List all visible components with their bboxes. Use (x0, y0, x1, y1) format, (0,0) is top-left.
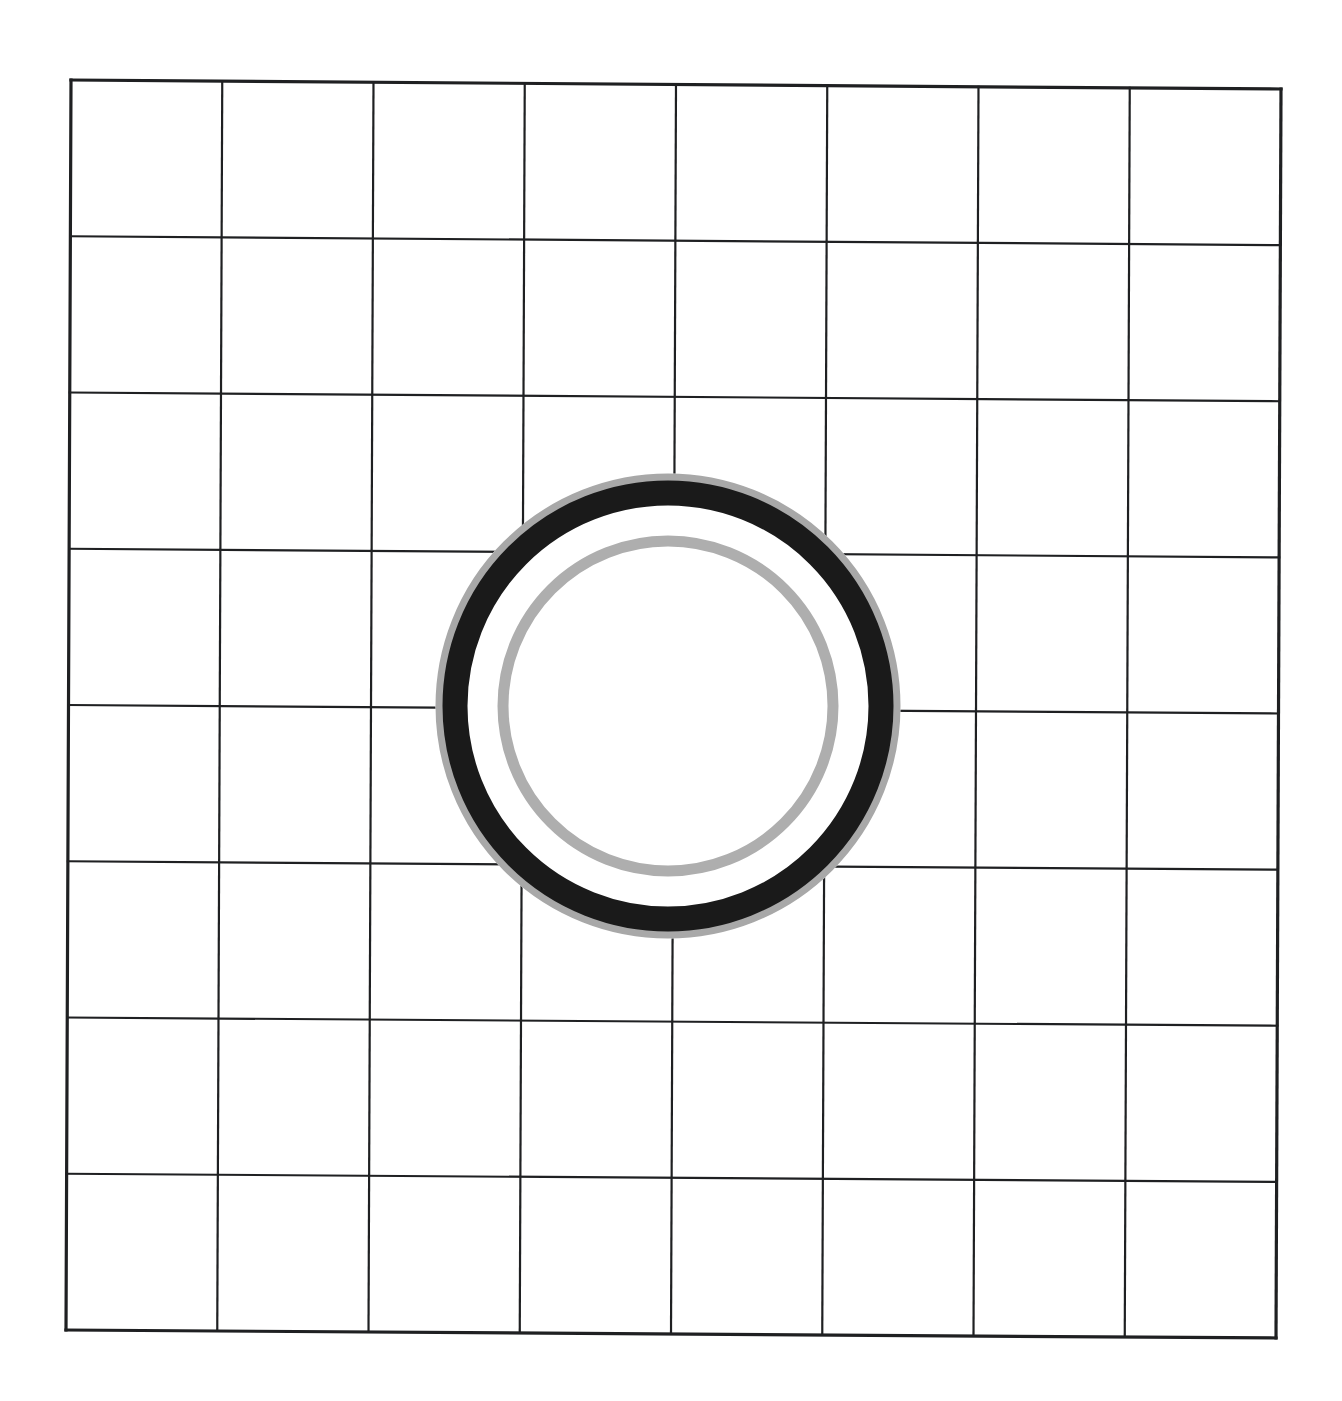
concentric-rings (436, 474, 901, 939)
figure-svg (0, 0, 1342, 1401)
page-canvas: Grid with concentric circular rings A ha… (0, 0, 1342, 1401)
